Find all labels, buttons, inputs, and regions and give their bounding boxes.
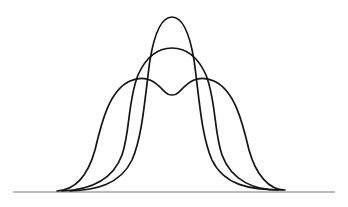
curve-wide-bimodal [57,78,285,191]
distribution-curves-diagram [0,0,348,207]
curve-tall-narrow [70,17,283,191]
curve-medium [62,48,278,191]
